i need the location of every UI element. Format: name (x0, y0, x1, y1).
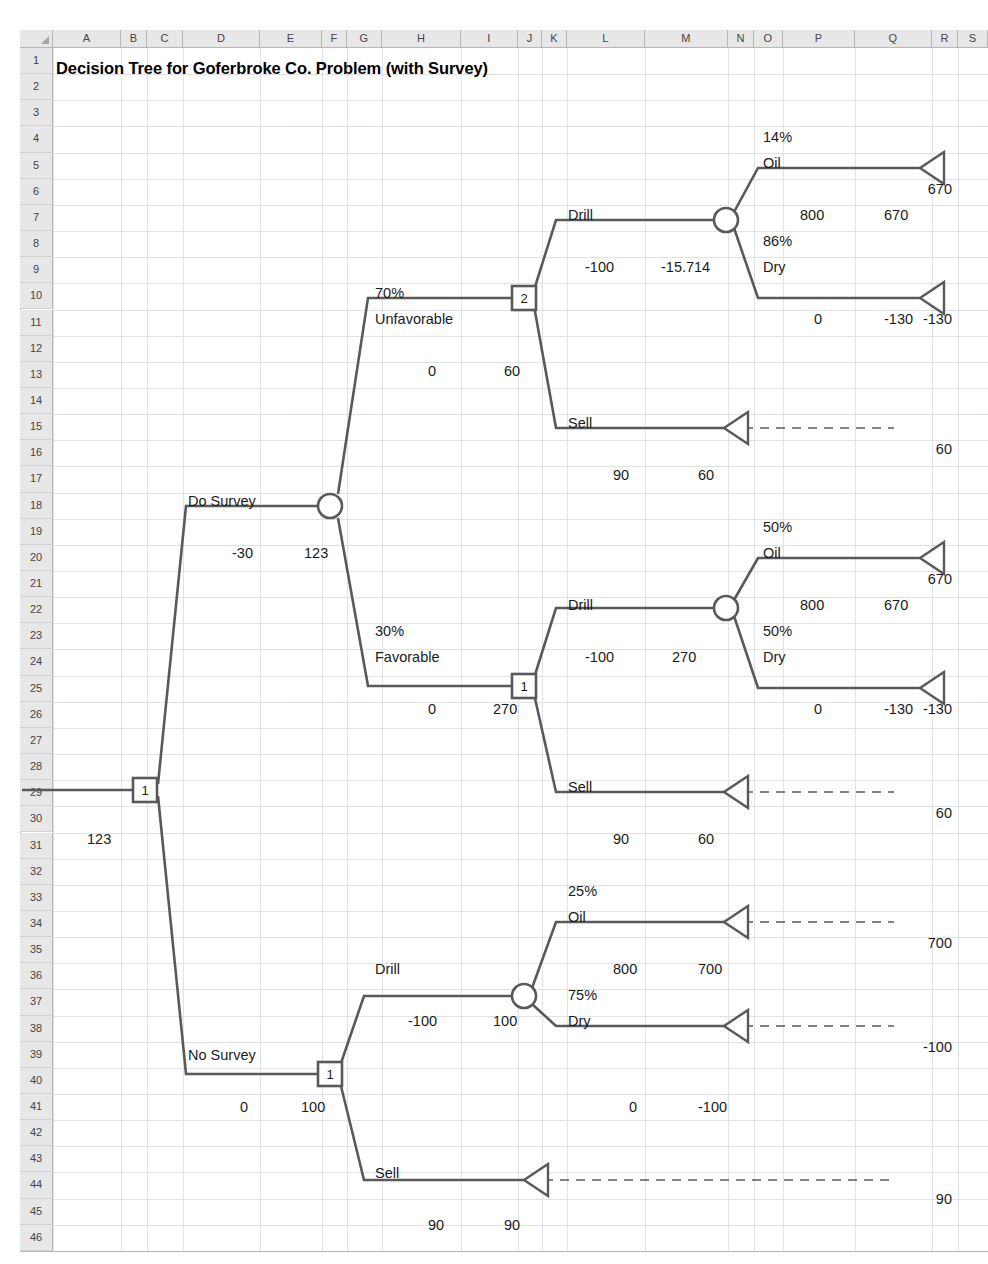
tree-label-t20: 90 (613, 468, 629, 483)
edge-fav-dry (734, 616, 920, 688)
terminal-arrow-fav-dry (920, 672, 944, 704)
terminal-arrow-fav-oil (920, 542, 944, 574)
tree-label-t64: 90 (936, 1192, 952, 1207)
tree-label-t50: Drill (375, 962, 400, 977)
tree-label-t51: 800 (613, 962, 637, 977)
tree-label-t22: Do Survey (188, 494, 256, 509)
tree-label-t29: 800 (800, 598, 824, 613)
tree-label-t40: 0 (814, 702, 822, 717)
edge-fav-sell (534, 694, 724, 792)
terminal-arrow-nosurvey-oil (724, 906, 748, 938)
node-fav-label: 1 (520, 679, 527, 694)
tree-label-t58: No Survey (188, 1048, 256, 1063)
tree-label-t28: Drill (568, 598, 593, 613)
tree-label-t57: -100 (923, 1040, 952, 1055)
terminal-arrow-fav-sell (724, 776, 748, 808)
tree-label-t6: 670 (884, 208, 908, 223)
tree-label-t56: Dry (568, 1014, 591, 1029)
tree-label-t8: -15.714 (661, 260, 710, 275)
page-title: Decision Tree for Goferbroke Co. Problem… (56, 59, 488, 78)
tree-label-t12: 70% (375, 286, 404, 301)
tree-label-t34: Dry (763, 650, 786, 665)
tree-label-t39: 270 (493, 702, 517, 717)
edge-unfav-oil (734, 168, 920, 212)
node-unfav-label: 2 (520, 291, 527, 306)
tree-label-t15: 60 (504, 364, 520, 379)
tree-label-t14: 0 (428, 364, 436, 379)
node-unfav-drill-event (714, 208, 738, 232)
tree-label-t32: 270 (672, 650, 696, 665)
terminal-arrow-unfav-dry (920, 282, 944, 314)
edge-unfavorable (338, 298, 512, 494)
terminal-arrow-unfav-oil (920, 152, 944, 184)
edge-nosurvey-drill (340, 996, 512, 1066)
tree-label-t46: 123 (87, 832, 111, 847)
tree-label-t13: Unfavorable (375, 312, 453, 327)
node-nosurvey-label: 1 (326, 1067, 333, 1082)
tree-label-t19: 60 (936, 442, 952, 457)
tree-label-t52: 700 (698, 962, 722, 977)
edge-nosurvey-sell (340, 1082, 524, 1180)
node-nosurvey-drill-event (512, 984, 536, 1008)
tree-label-t16: 0 (814, 312, 822, 327)
tree-label-t35: -130 (923, 702, 952, 717)
tree-label-t54: 100 (493, 1014, 517, 1029)
tree-label-t1: 14% (763, 130, 792, 145)
tree-label-t63: Sell (375, 1166, 399, 1181)
tree-label-t18: Sell (568, 416, 592, 431)
tree-label-t60: 100 (301, 1100, 325, 1115)
spreadsheet-canvas: ABCDEFGHIJKLMNOPQRS123456789101112131415… (0, 0, 988, 1264)
tree-label-t33: 50% (763, 624, 792, 639)
tree-label-t31: -100 (585, 650, 614, 665)
edge-nosurvey-dry (532, 1004, 724, 1026)
tree-label-t10: Dry (763, 260, 786, 275)
node-root-label: 1 (141, 783, 148, 798)
decision-tree-graphic: 1 2 1 1 (0, 0, 988, 1264)
tree-label-t24: 123 (304, 546, 328, 561)
tree-label-t5: 800 (800, 208, 824, 223)
tree-label-t48: Oil (568, 910, 586, 925)
tree-label-t4: Drill (568, 208, 593, 223)
tree-label-t59: 0 (240, 1100, 248, 1115)
tree-label-t27: 670 (928, 572, 952, 587)
edge-fav-oil (734, 558, 920, 600)
tree-label-t23: -30 (232, 546, 253, 561)
terminal-arrow-nosurvey-dry (724, 1010, 748, 1042)
terminal-arrow-nosurvey-sell (524, 1164, 548, 1196)
tree-label-t17: -130 (884, 312, 913, 327)
edge-fav-drill (534, 608, 714, 678)
tree-label-t3: 670 (928, 182, 952, 197)
tree-label-t49: 700 (928, 936, 952, 951)
tree-label-t41: -130 (884, 702, 913, 717)
tree-label-t53: -100 (408, 1014, 437, 1029)
tree-label-t45: 60 (698, 832, 714, 847)
tree-label-t11: -130 (923, 312, 952, 327)
node-fav-drill-event (714, 596, 738, 620)
terminal-arrow-unfav-sell (724, 412, 748, 444)
tree-label-t61: 0 (629, 1100, 637, 1115)
tree-label-t43: 60 (936, 806, 952, 821)
tree-label-t66: 90 (504, 1218, 520, 1233)
tree-label-t62: -100 (698, 1100, 727, 1115)
node-survey-event (318, 494, 342, 518)
edge-unfav-drill (534, 220, 714, 290)
tree-label-t30: 670 (884, 598, 908, 613)
edge-no-survey (158, 796, 318, 1074)
tree-label-t9: 86% (763, 234, 792, 249)
tree-label-t47: 25% (568, 884, 597, 899)
tree-label-t55: 75% (568, 988, 597, 1003)
tree-label-t2: Oil (763, 156, 781, 171)
tree-label-t21: 60 (698, 468, 714, 483)
tree-label-t26: Oil (763, 546, 781, 561)
tree-label-t36: 30% (375, 624, 404, 639)
tree-label-t7: -100 (585, 260, 614, 275)
tree-label-t65: 90 (428, 1218, 444, 1233)
tree-label-t38: 0 (428, 702, 436, 717)
edge-unfav-sell (534, 306, 724, 428)
edge-nosurvey-oil (532, 922, 724, 988)
tree-label-t25: 50% (763, 520, 792, 535)
tree-label-t42: Sell (568, 780, 592, 795)
tree-label-t37: Favorable (375, 650, 439, 665)
edge-unfav-dry (734, 228, 920, 298)
tree-label-t44: 90 (613, 832, 629, 847)
